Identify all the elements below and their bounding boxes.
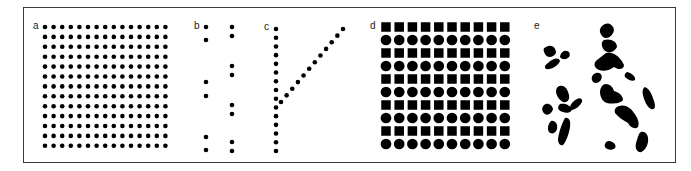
- figure-artwork: [0, 0, 691, 171]
- panel-a-dot-grid: [43, 25, 168, 148]
- panel-c-dot-branch: [274, 27, 346, 154]
- panel-d-shape-grid: [381, 22, 511, 149]
- panel-b-dot-columns: [204, 25, 235, 154]
- panel-e-blobs: [542, 23, 655, 152]
